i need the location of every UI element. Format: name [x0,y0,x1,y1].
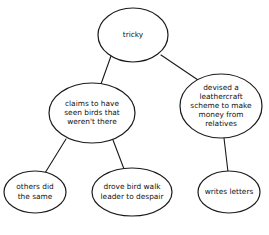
edge-claims-to-others [45,139,66,173]
edge-claims-to-drove [113,140,124,169]
node-drove-bird-walk-leader[interactable]: drove bird walkleader to despair [92,168,172,216]
node-writes-letters[interactable]: writes letters [198,171,260,213]
node-drove-bird-walk-leader-label-line: leader to despair [101,192,165,201]
edge-devised-to-writes [224,138,228,172]
node-drove-bird-walk-leader-label-line: drove bird walk [104,182,162,191]
edge-tricky-to-claims [101,56,111,84]
tree-diagram: trickyclaims to haveseen birds thatweren… [0,0,269,235]
node-claims-to-have-seen-birds-label-line: weren't there [67,117,117,126]
edge-tricky-to-devised [161,55,198,80]
node-claims-to-have-seen-birds-label-line: seen birds that [64,108,120,117]
node-others-did-the-same-label-line: the same [18,192,53,201]
node-others-did-the-same[interactable]: others didthe same [4,171,66,213]
node-tricky-label-line: tricky [123,30,144,39]
node-tricky[interactable]: tricky [98,8,168,62]
node-devised-leathercraft-scheme-label-line: leathercraft [199,92,242,101]
node-layer: trickyclaims to haveseen birds thatweren… [4,8,262,216]
node-devised-leathercraft-scheme-label-line: scheme to make [190,101,252,110]
node-devised-leathercraft-scheme-label-line: devised a [203,83,239,92]
node-others-did-the-same-label-line: others did [16,182,54,191]
node-claims-to-have-seen-birds-label-line: claims to have [65,99,119,108]
node-writes-letters-label-line: writes letters [205,187,254,196]
node-devised-leathercraft-scheme-label-line: money from [199,110,244,119]
node-devised-leathercraft-scheme-label-line: relatives [205,119,237,128]
node-claims-to-have-seen-birds[interactable]: claims to haveseen birds thatweren't the… [49,83,135,143]
diagram-canvas: trickyclaims to haveseen birds thatweren… [0,0,269,235]
node-devised-leathercraft-scheme[interactable]: devised aleathercraftscheme to makemoney… [180,74,262,138]
